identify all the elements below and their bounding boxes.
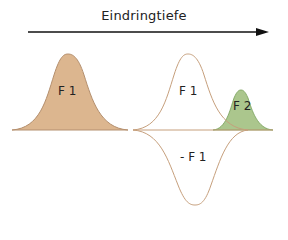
label-left-f1: F 1 [58,84,76,98]
neg-f1-curve [133,130,248,205]
depth-arrow [28,28,269,36]
label-neg-f1: - F 1 [180,150,207,164]
label-f2: F 2 [233,99,251,113]
label-right-f1: F 1 [179,84,197,98]
